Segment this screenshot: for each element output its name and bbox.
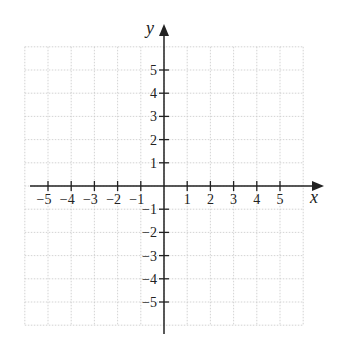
x-tick-label: 2 bbox=[207, 192, 214, 207]
y-tick-label: −4 bbox=[142, 272, 157, 287]
y-axis-arrow-icon bbox=[159, 24, 169, 36]
x-tick-label: −3 bbox=[83, 192, 98, 207]
y-axis-label: y bbox=[144, 18, 154, 38]
x-tick-label: −4 bbox=[60, 192, 75, 207]
y-tick-label: 1 bbox=[150, 156, 157, 171]
y-tick-label: −3 bbox=[142, 249, 157, 264]
y-tick-label: 4 bbox=[150, 86, 157, 101]
x-tick-label: 3 bbox=[230, 192, 237, 207]
x-tick-label: 4 bbox=[253, 192, 260, 207]
x-tick-label: 5 bbox=[277, 192, 284, 207]
coordinate-plane: x y −5−4−3−2−11234554321−1−2−3−4−5 bbox=[0, 0, 344, 346]
y-tick-label: 2 bbox=[150, 133, 157, 148]
x-tick-label: −2 bbox=[106, 192, 121, 207]
y-tick-label: 3 bbox=[150, 109, 157, 124]
y-tick-label: 5 bbox=[150, 63, 157, 78]
y-tick-label: −1 bbox=[142, 202, 157, 217]
x-tick-label: 1 bbox=[184, 192, 191, 207]
x-tick-label: −5 bbox=[37, 192, 52, 207]
x-axis-label: x bbox=[309, 187, 318, 207]
y-tick-label: −2 bbox=[142, 225, 157, 240]
y-tick-label: −5 bbox=[142, 295, 157, 310]
